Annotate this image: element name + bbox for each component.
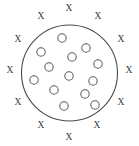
open-circle-icon — [50, 86, 58, 94]
x-mark-icon: X — [118, 97, 125, 107]
x-mark-icon: X — [38, 11, 45, 21]
open-circle-icon — [37, 48, 45, 56]
open-circle-icon — [58, 34, 66, 42]
open-circle-icon — [81, 90, 89, 98]
x-mark-icon: X — [66, 132, 73, 142]
open-circle-icon — [65, 72, 73, 80]
open-circle-icon — [82, 44, 90, 52]
x-mark-icon: X — [95, 11, 102, 21]
diagram-canvas: XXXXXXXXXXXX — [0, 0, 139, 146]
x-mark-icon: X — [38, 120, 45, 130]
open-circle-icon — [30, 76, 38, 84]
inside-particle-layer — [30, 34, 102, 110]
open-circle-icon — [60, 102, 68, 110]
x-mark-icon: X — [126, 65, 133, 75]
x-mark-icon: X — [66, 3, 73, 13]
open-circle-icon — [94, 60, 102, 68]
x-mark-icon: X — [7, 65, 14, 75]
x-mark-icon: X — [94, 120, 101, 130]
open-circle-icon — [91, 101, 99, 109]
x-mark-icon: X — [15, 97, 22, 107]
open-circle-icon — [68, 53, 76, 61]
open-circle-icon — [89, 77, 97, 85]
x-mark-icon: X — [15, 34, 22, 44]
diagram-svg: XXXXXXXXXXXX — [0, 0, 139, 146]
open-circle-icon — [45, 63, 53, 71]
x-mark-icon: X — [118, 34, 125, 44]
